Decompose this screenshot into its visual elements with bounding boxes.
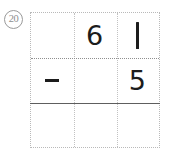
computation-grid: 6 5 <box>30 12 160 148</box>
cell-r1c2[interactable]: 6 <box>73 13 115 58</box>
grid-row-minuend: 6 <box>31 13 159 58</box>
minus-operator-icon <box>45 79 59 82</box>
cell-r3c1[interactable] <box>31 103 73 149</box>
worksheet-problem: 20 6 5 <box>0 0 170 154</box>
cell-r2c2[interactable] <box>73 58 115 103</box>
cell-r2c3[interactable]: 5 <box>116 58 159 103</box>
cell-r3c3[interactable] <box>116 103 159 149</box>
cell-r1c3-value <box>136 22 139 49</box>
cell-r2c3-value: 5 <box>129 67 146 94</box>
cell-r1c1[interactable] <box>31 13 73 58</box>
grid-row-answer <box>31 103 159 149</box>
cell-r2c1[interactable] <box>31 58 73 103</box>
cell-r3c2[interactable] <box>73 103 115 149</box>
cell-r1c3[interactable] <box>116 13 159 58</box>
problem-number-badge-icon: 20 <box>4 10 23 29</box>
cell-r1c2-value: 6 <box>86 22 103 49</box>
grid-row-subtrahend: 5 <box>31 58 159 103</box>
